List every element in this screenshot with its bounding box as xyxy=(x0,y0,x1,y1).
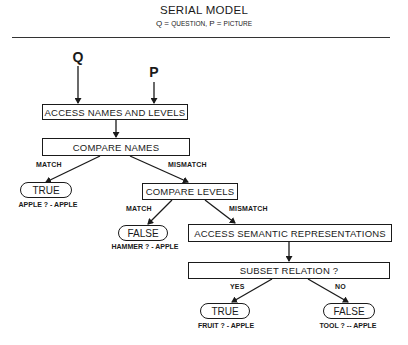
node-true-names-match: TRUE xyxy=(20,182,72,198)
node-compare-levels: COMPARE LEVELS xyxy=(142,183,238,200)
caption-false-levels-match: HAMMER ? - APPLE xyxy=(102,243,188,250)
node-false-levels-match: FALSE xyxy=(118,225,168,241)
node-true-subset-yes: TRUE xyxy=(200,303,250,319)
input-p-label: P xyxy=(144,64,164,80)
connector-arrows xyxy=(0,0,408,345)
node-compare-names: COMPARE NAMES xyxy=(42,138,190,156)
edge-label-names-match: MATCH xyxy=(36,161,62,168)
edge-label-subset-yes: YES xyxy=(230,283,245,290)
edge-label-levels-mismatch: MISMATCH xyxy=(229,205,268,212)
edge-label-levels-match: MATCH xyxy=(126,205,152,212)
input-q-label: Q xyxy=(68,49,88,65)
caption-false-subset-no: TOOL ? -- APPLE xyxy=(306,322,390,329)
node-access-semantic-representations: ACCESS SEMANTIC REPRESENTATIONS xyxy=(188,224,392,242)
caption-true-names-match: APPLE ? - APPLE xyxy=(6,201,90,208)
node-access-names-and-levels: ACCESS NAMES AND LEVELS xyxy=(42,104,188,120)
edge-label-subset-no: NO xyxy=(335,283,346,290)
edge-label-names-mismatch: MISMATCH xyxy=(168,161,207,168)
node-subset-relation: SUBSET RELATION ? xyxy=(188,262,390,279)
node-false-subset-no: FALSE xyxy=(323,303,375,319)
caption-true-subset-yes: FRUIT ? - APPLE xyxy=(186,322,266,329)
